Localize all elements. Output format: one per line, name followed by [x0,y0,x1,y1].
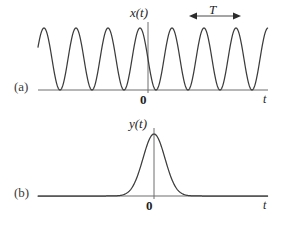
period-arrow-left-icon [189,12,197,19]
signal-label-y-of-t: y(t) [129,116,147,132]
signal-label-x-of-t: x(t) [130,5,148,21]
signal-figure: (a) (b) x(t) y(t) 0 0 t t T [0,0,285,229]
gaussian-pulse-curve [38,134,268,196]
axis-label-t-a: t [263,92,266,107]
origin-label-a: 0 [140,92,147,108]
period-arrow-right-icon [233,12,241,19]
origin-label-b: 0 [146,198,153,214]
axis-label-t-b: t [263,198,266,213]
sinusoid-curve [38,28,268,90]
panel-label-a: (a) [14,79,28,95]
panel-label-b: (b) [14,185,29,201]
period-label-T: T [209,2,216,18]
plot-canvas [0,0,285,229]
